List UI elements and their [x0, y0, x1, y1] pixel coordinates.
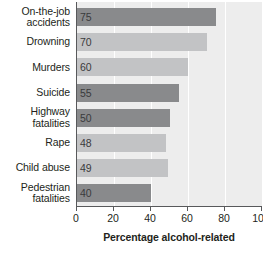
y-axis-label: Highwayfatalities [0, 106, 70, 129]
bar: 75 [77, 8, 216, 26]
y-axis-label: Murders [0, 62, 70, 74]
bar-value-label: 75 [80, 12, 92, 23]
x-tick-label: 0 [61, 212, 91, 224]
x-tick-label: 100 [246, 212, 263, 224]
bar-chart-figure: On-the-jobaccidentsDrowningMurdersSuicid… [0, 0, 263, 255]
bar: 60 [77, 58, 188, 76]
y-axis-label-line: Drowning [0, 36, 70, 48]
x-tick-label: 40 [135, 212, 165, 224]
y-axis-label: Pedestrianfatalities [0, 182, 70, 205]
y-axis-label: Child abuse [0, 162, 70, 174]
bar-value-label: 50 [80, 112, 92, 123]
x-tick-label: 20 [98, 212, 128, 224]
y-axis-label-line: Child abuse [0, 162, 70, 174]
x-tick-100 [261, 207, 262, 211]
bar: 49 [77, 159, 168, 177]
x-axis-line [76, 206, 262, 207]
y-axis-label-line: Rape [0, 137, 70, 149]
y-axis-label-line: accidents [0, 17, 70, 29]
bar-value-label: 49 [80, 163, 92, 174]
x-tick-0 [76, 207, 77, 211]
y-axis-category-labels: On-the-jobaccidentsDrowningMurdersSuicid… [0, 2, 74, 207]
y-axis-label-line: Suicide [0, 87, 70, 99]
bar-value-label: 48 [80, 138, 92, 149]
x-tick-20 [113, 207, 114, 211]
y-axis-label: Rape [0, 137, 70, 149]
bar: 55 [77, 84, 179, 102]
bar: 40 [77, 184, 151, 202]
x-axis-title: Percentage alcohol-related [76, 231, 262, 243]
x-tick-label: 60 [172, 212, 202, 224]
x-tick-60 [187, 207, 188, 211]
bar-value-label: 70 [80, 37, 92, 48]
bar: 70 [77, 33, 207, 51]
plot-area: 7570605550484940 [76, 2, 262, 207]
y-axis-label-line: fatalities [0, 193, 70, 205]
x-tick-40 [150, 207, 151, 211]
bar-value-label: 60 [80, 62, 92, 73]
y-axis-label-line: Murders [0, 62, 70, 74]
x-tick-label: 80 [209, 212, 239, 224]
gridline-80 [225, 2, 226, 207]
y-axis-label-line: fatalities [0, 118, 70, 130]
bar: 50 [77, 109, 170, 127]
bar-value-label: 55 [80, 87, 92, 98]
y-axis-label: On-the-jobaccidents [0, 6, 70, 29]
y-axis-label: Drowning [0, 36, 70, 48]
x-tick-80 [224, 207, 225, 211]
bar: 48 [77, 134, 166, 152]
bar-value-label: 40 [80, 188, 92, 199]
gridline-100 [262, 2, 263, 207]
y-axis-label: Suicide [0, 87, 70, 99]
